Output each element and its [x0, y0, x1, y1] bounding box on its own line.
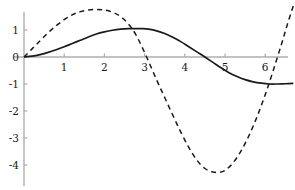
- chart-container: 123456 10-1-2-3-4: [0, 0, 295, 190]
- axes-group: [14, 12, 288, 186]
- y-axis-tick-labels: 10-1-2-3-4: [9, 24, 20, 171]
- x-tick-label: 3: [141, 61, 148, 73]
- y-tick-label: -1: [9, 78, 19, 90]
- data-curves: [24, 6, 293, 173]
- plot-area: 123456 10-1-2-3-4: [0, 0, 295, 190]
- y-tick-label: 0: [12, 51, 19, 63]
- y-tick-label: 1: [12, 24, 19, 36]
- x-tick-label: 5: [222, 61, 229, 73]
- x-tick-label: 1: [61, 61, 68, 73]
- y-tick-label: -2: [9, 105, 19, 117]
- y-tick-label: -4: [9, 159, 20, 171]
- y-tick-label: -3: [9, 132, 19, 144]
- x-tick-label: 4: [181, 61, 188, 73]
- x-tick-label: 2: [101, 61, 108, 73]
- x-tick-label: 6: [262, 61, 269, 73]
- x-axis-tick-labels: 123456: [61, 61, 269, 73]
